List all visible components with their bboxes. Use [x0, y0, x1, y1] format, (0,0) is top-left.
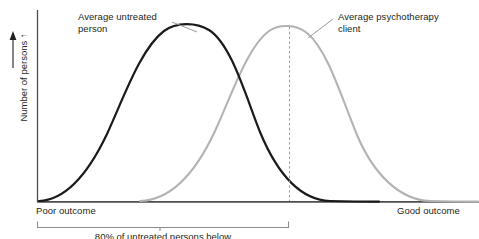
outcome-span-bracket — [38, 222, 289, 231]
annotation-average-untreated-person: Average untreated person — [78, 11, 188, 35]
y-axis-title-text: Number of persons ↑ — [18, 33, 29, 121]
x-axis-label-good-outcome: Good outcome — [397, 205, 460, 217]
leader-line-client — [308, 19, 333, 38]
series-average-psychotherapy-client — [140, 26, 478, 202]
y-axis-title: Number of persons ↑ — [18, 0, 29, 163]
bracket-caption: 80% of untreated persons below — [37, 231, 289, 239]
annotation-average-psychotherapy-client: Average psychotherapy client — [338, 11, 458, 35]
chart-canvas: Number of persons ↑ Average untreated pe… — [0, 0, 479, 239]
chart-svg — [0, 0, 479, 239]
y-axis-arrow-icon — [10, 31, 17, 68]
series-average-untreated-person — [39, 24, 379, 201]
x-axis-label-poor-outcome: Poor outcome — [36, 205, 96, 217]
